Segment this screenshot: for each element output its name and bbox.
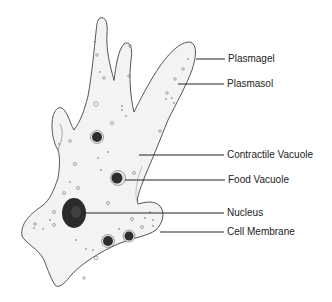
label-nucleus: Nucleus <box>227 207 263 219</box>
label-food-vacuole: Food Vacuole <box>228 174 289 186</box>
label-cell-membrane: Cell Membrane <box>227 226 295 238</box>
label-contractile-vacuole: Contractile Vacuole <box>227 149 313 161</box>
food-vacuole-main <box>111 171 126 186</box>
label-plasmagel: Plasmagel <box>228 53 275 65</box>
food-vacuole-3 <box>102 235 115 248</box>
food-vacuole-4 <box>123 230 135 242</box>
label-plasmasol: Plasmasol <box>227 78 273 90</box>
food-vacuole-1 <box>91 131 104 144</box>
